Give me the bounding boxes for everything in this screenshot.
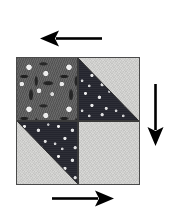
quilt-quadrant-bottom-right	[78, 121, 139, 184]
arrow-down-icon	[147, 84, 164, 146]
quilt-quadrant-top-right	[78, 58, 139, 121]
fabric-patch-solid-light	[78, 121, 139, 184]
arrow-right-icon	[52, 190, 114, 207]
quilt-quadrant-bottom-left	[17, 121, 78, 184]
fabric-patch-floral-print-dark	[17, 58, 78, 121]
quilt-block	[16, 57, 140, 185]
figure-canvas	[0, 0, 174, 214]
quilt-quadrant-top-left	[17, 58, 78, 121]
arrow-left-icon	[40, 30, 102, 47]
